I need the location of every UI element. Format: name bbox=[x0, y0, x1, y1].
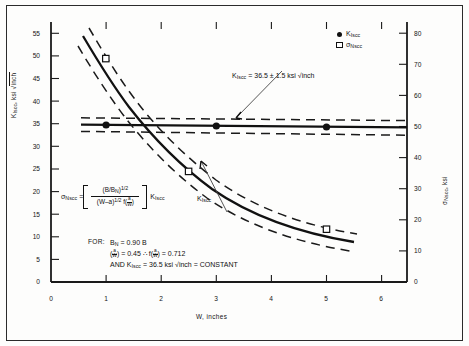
legend-item-kiscc: KIscc bbox=[333, 28, 362, 39]
right-axis-ticks bbox=[399, 33, 407, 282]
y2tick-label: 70 bbox=[414, 61, 421, 68]
equation-fraction: (B/BN)1/2 (W–a)1/2 f(aW) bbox=[88, 185, 142, 209]
marker-kiscc-w5 bbox=[323, 123, 330, 130]
ytick-label: 10 bbox=[26, 233, 40, 240]
xtick-label: 2 bbox=[154, 295, 168, 302]
y2tick-label: 0 bbox=[414, 278, 418, 285]
conditions-for-label: FOR: bbox=[88, 237, 105, 247]
conditions-block: FOR: BN = 0.90 B (aW) = 0.45 ∴ f(aW) = 0… bbox=[88, 238, 238, 271]
ytick-label: 25 bbox=[26, 165, 40, 172]
kiscc-lower-bound bbox=[81, 131, 407, 135]
sigma-mean-curve bbox=[83, 36, 354, 242]
bottom-axis-ticks bbox=[106, 275, 382, 282]
y2tick-label: 80 bbox=[414, 30, 421, 37]
marker-kiscc-w1 bbox=[103, 121, 110, 128]
y2-axis-title: σNscc, ksi bbox=[441, 85, 449, 205]
ytick-label: 0 bbox=[26, 278, 40, 285]
ytick-label: 50 bbox=[26, 52, 40, 59]
y2tick-label: 30 bbox=[414, 185, 421, 192]
y2tick-label: 20 bbox=[414, 216, 421, 223]
figure-root: 0 5 10 15 20 25 30 35 40 45 50 55 0 10 2… bbox=[0, 0, 469, 346]
legend-item-sigma: σNscc bbox=[333, 39, 362, 50]
equation-numerator: (B/BN)1/2 bbox=[102, 186, 130, 196]
xtick-label: 6 bbox=[374, 295, 388, 302]
y2tick-label: 50 bbox=[414, 123, 421, 130]
xtick-label: 1 bbox=[99, 295, 113, 302]
annotation-kiscc-value: KIscc = 36.5 ± 1.5 ksi √inch bbox=[232, 72, 315, 80]
marker-sigma-w1 bbox=[103, 55, 109, 61]
annotation-leader-curve bbox=[200, 161, 227, 212]
xtick-label: 3 bbox=[209, 295, 223, 302]
xtick-label: 0 bbox=[44, 295, 58, 302]
marker-sigma-w25 bbox=[185, 168, 191, 174]
ytick-label: 15 bbox=[26, 211, 40, 218]
equation-sigma-nscc: σNscc = (B/BN)1/2 (W–a)1/2 f(aW) KIscc bbox=[61, 185, 165, 209]
condition-line-3: AND KIscc = 36.5 ksi √inch = CONSTANT bbox=[110, 260, 238, 271]
annotation-curve-label: KIscc bbox=[197, 195, 211, 203]
legend: KIscc σNscc bbox=[333, 28, 362, 50]
condition-line-2: (aW) = 0.45 ∴ f(aW) = 0.712 bbox=[110, 249, 238, 260]
marker-sigma-w5 bbox=[323, 226, 329, 232]
y2tick-label: 40 bbox=[414, 154, 421, 161]
xtick-label: 4 bbox=[264, 295, 278, 302]
y2tick-label: 10 bbox=[414, 247, 421, 254]
kiscc-upper-bound bbox=[81, 118, 407, 121]
y2tick-label: 60 bbox=[414, 92, 421, 99]
legend-label-sigma: σNscc bbox=[346, 41, 362, 49]
x-axis-title: W, inches bbox=[196, 313, 227, 320]
ytick-label: 35 bbox=[26, 120, 40, 127]
equation-denominator: (W–a)1/2 f(aW) bbox=[96, 197, 135, 208]
ytick-label: 45 bbox=[26, 75, 40, 82]
open-square-icon bbox=[333, 41, 346, 48]
filled-circle-icon bbox=[333, 30, 346, 37]
marker-kiscc-w3 bbox=[213, 122, 220, 129]
kiscc-mean-line bbox=[81, 125, 407, 128]
equation-rhs: KIscc bbox=[150, 193, 164, 201]
ytick-label: 55 bbox=[26, 30, 40, 37]
ytick-label: 30 bbox=[26, 143, 40, 150]
equation-bracket: (B/BN)1/2 (W–a)1/2 f(aW) bbox=[83, 185, 147, 209]
equation-lhs: σNscc bbox=[61, 193, 77, 201]
ytick-label: 5 bbox=[26, 256, 40, 263]
left-axis-ticks bbox=[51, 33, 59, 282]
condition-line-1: BN = 0.90 B bbox=[110, 238, 238, 249]
ytick-label: 40 bbox=[26, 98, 40, 105]
legend-label-kiscc: KIscc bbox=[346, 30, 360, 38]
xtick-label: 5 bbox=[319, 295, 333, 302]
ytick-label: 20 bbox=[26, 188, 40, 195]
y-axis-title: KIscc, ksi √inch bbox=[10, 0, 18, 118]
